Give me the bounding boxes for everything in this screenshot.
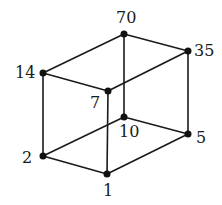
edge-70-14 [43, 34, 124, 73]
label-10: 10 [119, 124, 139, 140]
label-35: 35 [194, 43, 214, 59]
label-1: 1 [103, 183, 113, 199]
node-14 [40, 70, 47, 77]
label-7: 7 [90, 95, 100, 111]
edge-35-7 [108, 51, 188, 91]
edge-70-35 [124, 34, 188, 51]
nodes [40, 31, 192, 178]
edge-10-2 [43, 117, 124, 156]
label-70: 70 [116, 10, 136, 26]
node-35 [185, 48, 192, 55]
label-14: 14 [15, 65, 35, 81]
label-5: 5 [196, 130, 206, 146]
node-10 [121, 114, 128, 121]
lattice-diagram [0, 0, 222, 205]
edge-2-1 [43, 156, 107, 174]
node-2 [40, 153, 47, 160]
node-1 [104, 171, 111, 178]
node-7 [105, 88, 112, 95]
edge-7-1 [107, 91, 108, 174]
node-70 [121, 31, 128, 38]
edges [43, 34, 188, 174]
edge-14-7 [43, 73, 108, 91]
label-2: 2 [22, 150, 32, 166]
node-5 [185, 131, 192, 138]
